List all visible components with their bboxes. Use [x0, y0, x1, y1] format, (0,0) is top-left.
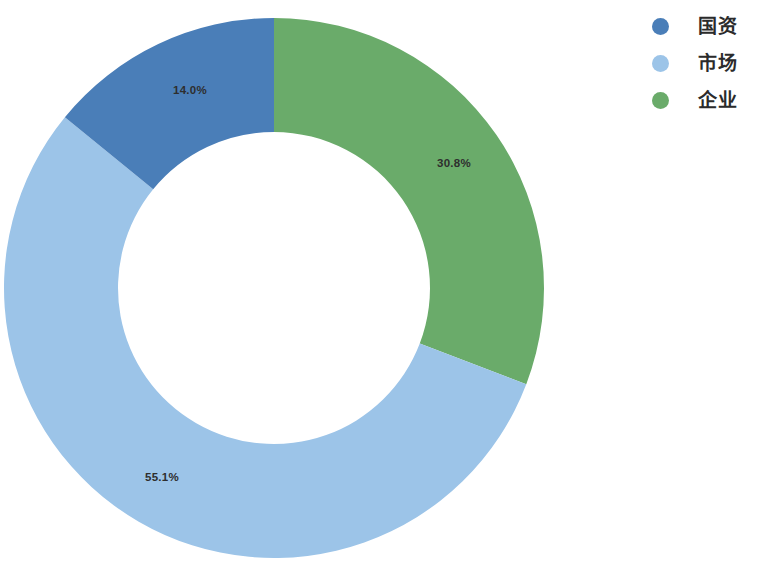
donut-slices: [4, 18, 544, 558]
legend-item-qiye[interactable]: 企业: [652, 82, 759, 119]
slice-label-2: 14.0%: [173, 84, 207, 96]
slice-label-0: 30.8%: [437, 157, 471, 169]
legend-item-shichang[interactable]: 市场: [652, 45, 759, 82]
legend-label-shichang: 市场: [698, 54, 738, 73]
legend-label-qiye: 企业: [698, 91, 738, 110]
donut-chart-svg: 30.8% 55.1% 14.0%: [0, 0, 600, 562]
legend-label-guozi: 国资: [698, 17, 738, 36]
donut-chart: 30.8% 55.1% 14.0%: [0, 0, 600, 562]
chart-legend: 国资 市场 企业: [652, 8, 759, 119]
legend-swatch-icon-qiye: [652, 92, 669, 109]
legend-item-guozi[interactable]: 国资: [652, 8, 759, 45]
legend-swatch-icon-guozi: [652, 18, 669, 35]
donut-slice-0[interactable]: [274, 18, 544, 384]
legend-swatch-icon-shichang: [652, 55, 669, 72]
slice-label-1: 55.1%: [145, 471, 179, 483]
